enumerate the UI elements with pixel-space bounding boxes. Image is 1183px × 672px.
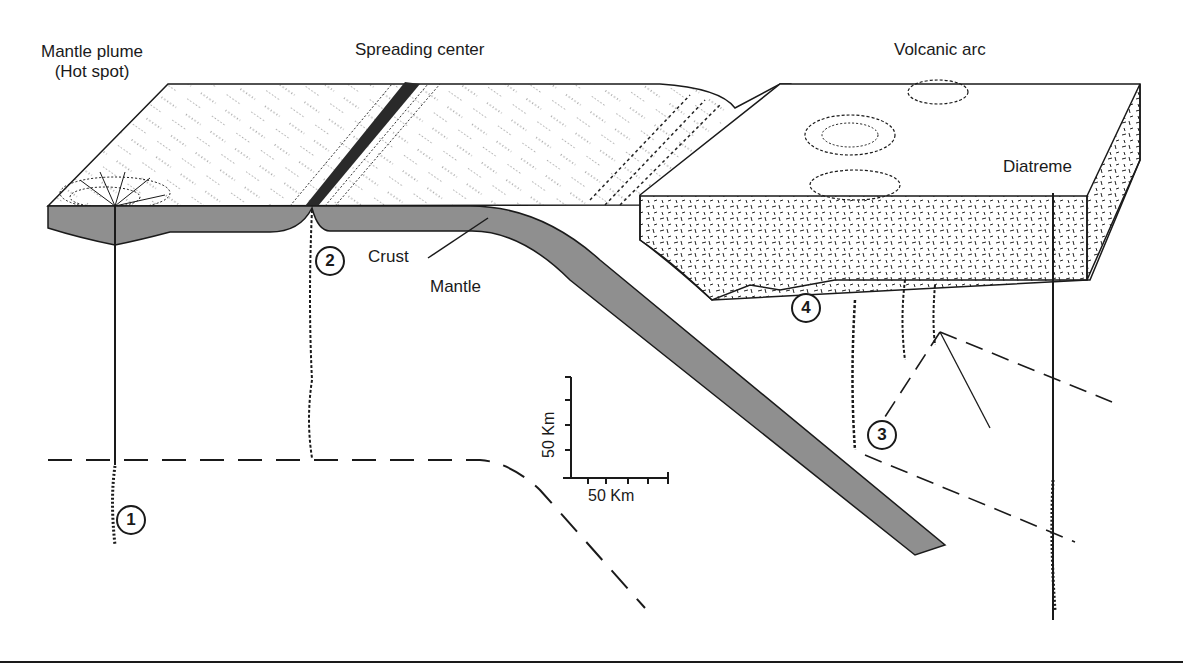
lithosphere-boundary — [48, 460, 645, 608]
mantle-plume-label-line1: Mantle plume — [27, 42, 157, 62]
mantle-label: Mantle — [430, 277, 481, 297]
scale-horizontal-label: 50 Km — [588, 487, 634, 505]
marker-4: 4 — [791, 293, 821, 323]
volcanic-arc-label: Volcanic arc — [894, 40, 986, 60]
diagram-artwork — [0, 0, 1183, 672]
tectonic-block-diagram: Mantle plume (Hot spot) Spreading center… — [0, 0, 1183, 672]
bottom-rule — [0, 661, 1183, 663]
mantle-plume-label-line2: (Hot spot) — [27, 62, 157, 82]
scale-bar — [563, 377, 668, 484]
arc-pointer-line — [940, 332, 990, 428]
scale-vertical-label: 50 Km — [540, 412, 558, 458]
marker-2: 2 — [315, 246, 345, 276]
marker-1: 1 — [116, 505, 146, 535]
mantle-plume-label: Mantle plume (Hot spot) — [27, 42, 157, 82]
spreading-center-label: Spreading center — [355, 40, 484, 60]
marker-3: 3 — [867, 420, 897, 450]
diatreme-label: Diatreme — [1003, 157, 1072, 177]
crust-label: Crust — [368, 247, 409, 267]
